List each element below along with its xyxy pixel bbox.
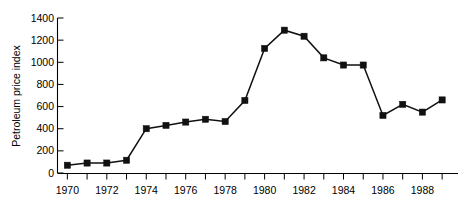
y-axis-title-text: Petroleum price index bbox=[10, 44, 22, 146]
y-axis-tick-marks bbox=[58, 18, 64, 173]
data-point-1972 bbox=[104, 160, 110, 166]
x-tick-label: 1980 bbox=[253, 184, 277, 196]
petroleum-price-index-line-chart: Petroleum price index 020040060080010001… bbox=[0, 0, 464, 206]
chart-figure: Petroleum price index 020040060080010001… bbox=[0, 0, 464, 206]
data-point-1974 bbox=[143, 126, 149, 132]
x-tick-label: 1988 bbox=[411, 184, 435, 196]
data-point-1989 bbox=[439, 97, 445, 103]
data-point-1988 bbox=[419, 109, 425, 115]
y-tick-label: 800 bbox=[36, 78, 54, 90]
data-point-1978 bbox=[222, 118, 228, 124]
y-axis-tick-labels: 0200400600800100012001400 bbox=[31, 12, 55, 179]
x-tick-label: 1972 bbox=[95, 184, 119, 196]
x-axis-tick-labels: 1970197219741976197819801982198419861988 bbox=[56, 184, 435, 196]
data-point-1985 bbox=[360, 62, 366, 68]
data-point-1986 bbox=[380, 112, 386, 118]
data-point-1971 bbox=[84, 160, 90, 166]
y-tick-label: 0 bbox=[48, 167, 54, 179]
data-point-1970 bbox=[64, 162, 70, 168]
x-tick-label: 1984 bbox=[332, 184, 356, 196]
x-tick-label: 1970 bbox=[56, 184, 80, 196]
data-point-1973 bbox=[123, 157, 129, 163]
y-tick-label: 600 bbox=[36, 100, 54, 112]
x-tick-label: 1978 bbox=[213, 184, 237, 196]
x-tick-label: 1974 bbox=[135, 184, 159, 196]
x-tick-label: 1976 bbox=[174, 184, 198, 196]
data-point-1979 bbox=[242, 97, 248, 103]
x-tick-label: 1986 bbox=[371, 184, 395, 196]
data-point-1975 bbox=[163, 122, 169, 128]
y-tick-label: 1000 bbox=[31, 56, 55, 68]
data-point-1977 bbox=[202, 116, 208, 122]
data-point-1982 bbox=[301, 33, 307, 39]
series-markers bbox=[64, 27, 445, 168]
y-tick-label: 200 bbox=[36, 144, 54, 156]
data-point-1984 bbox=[340, 62, 346, 68]
y-tick-label: 1200 bbox=[31, 34, 55, 46]
y-tick-label: 400 bbox=[36, 122, 54, 134]
data-point-1987 bbox=[400, 101, 406, 107]
y-axis-title: Petroleum price index bbox=[10, 44, 22, 146]
x-axis-tick-marks bbox=[67, 174, 442, 180]
data-point-1976 bbox=[183, 119, 189, 125]
data-point-1981 bbox=[281, 27, 287, 33]
data-point-1983 bbox=[321, 55, 327, 61]
y-tick-label: 1400 bbox=[31, 12, 55, 24]
x-tick-label: 1982 bbox=[292, 184, 316, 196]
data-point-1980 bbox=[262, 45, 268, 51]
series-line-petroleum-price-index bbox=[67, 30, 442, 165]
